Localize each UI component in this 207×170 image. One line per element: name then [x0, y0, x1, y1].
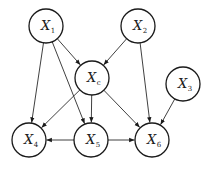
node-x4: X4 [12, 123, 46, 157]
node-subscript: c [97, 79, 101, 87]
node-subscript: 6 [157, 141, 162, 149]
node-subscript: 5 [96, 141, 100, 149]
edge-x3-to-x6 [161, 99, 175, 125]
edge-x2-to-xc [104, 39, 127, 65]
node-subscript: 4 [34, 141, 39, 149]
node-subscript: 1 [51, 27, 55, 35]
edge-x1-to-x4 [32, 43, 44, 123]
causal-graph: X1X2XcX3X4X5X6 [0, 0, 207, 170]
edge-x2-to-x6 [140, 43, 150, 123]
node-x5: X5 [74, 123, 108, 157]
node-x3: X3 [166, 67, 200, 101]
node-xc: Xc [75, 61, 109, 95]
nodes: X1X2XcX3X4X5X6 [12, 9, 200, 157]
node-x2: X2 [121, 9, 155, 43]
node-subscript: 3 [188, 85, 192, 93]
edge-xc-to-x4 [42, 90, 80, 128]
node-x6: X6 [135, 123, 169, 157]
node-x1: X1 [29, 9, 63, 43]
node-subscript: 2 [143, 27, 147, 35]
edge-xc-to-x6 [104, 90, 140, 127]
edge-x1-to-xc [57, 39, 80, 65]
